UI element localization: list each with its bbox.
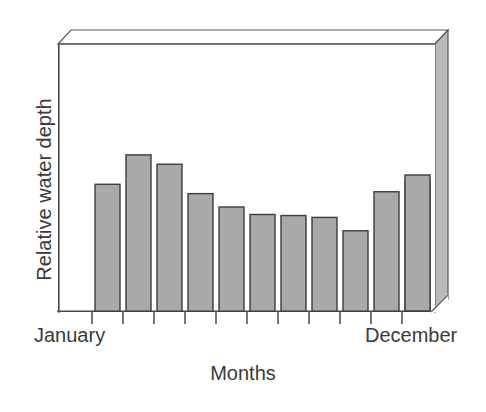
bar-march bbox=[157, 164, 182, 311]
bar-april bbox=[188, 194, 213, 312]
bar-august bbox=[312, 217, 337, 311]
bar-october bbox=[374, 192, 399, 311]
bar-may bbox=[219, 207, 244, 311]
bar-september bbox=[343, 231, 368, 311]
bar-chart-figure: Relative water depth Months January Dece… bbox=[0, 0, 486, 412]
box-right-wall bbox=[435, 30, 448, 312]
bar-january bbox=[95, 184, 120, 311]
chart-canvas bbox=[0, 0, 486, 412]
x-axis-ticks bbox=[92, 312, 402, 324]
y-axis-title: Relative water depth bbox=[33, 80, 56, 300]
box-top-face bbox=[58, 30, 448, 44]
bar-december bbox=[405, 175, 430, 311]
x-axis-title: Months bbox=[0, 362, 486, 385]
bar-february bbox=[126, 155, 151, 311]
x-tick-label-january: January bbox=[34, 324, 105, 347]
bar-july bbox=[281, 216, 306, 312]
x-tick-label-december: December bbox=[365, 324, 457, 347]
bar-june bbox=[250, 214, 275, 311]
